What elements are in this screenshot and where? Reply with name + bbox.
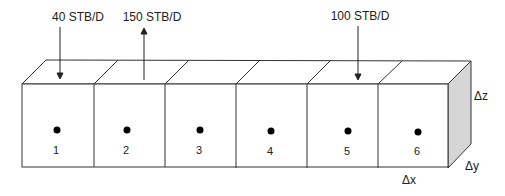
cell-number-1: 1 bbox=[53, 145, 59, 156]
grid-block-drawing bbox=[0, 0, 505, 196]
dimension-label-dx: Δx bbox=[402, 174, 416, 186]
well-rate-label-cell-1: 40 STB/D bbox=[52, 11, 104, 23]
top-face bbox=[22, 60, 471, 84]
node-4 bbox=[268, 128, 275, 135]
node-3 bbox=[197, 127, 204, 134]
node-1 bbox=[54, 127, 61, 134]
cell-number-3: 3 bbox=[196, 145, 202, 156]
dimension-label-dz: Δz bbox=[474, 90, 488, 102]
node-2 bbox=[124, 127, 131, 134]
node-6 bbox=[415, 129, 422, 136]
front-face bbox=[22, 84, 448, 167]
cell-number-4: 4 bbox=[267, 146, 273, 157]
well-rate-label-cell-2: 150 STB/D bbox=[123, 11, 182, 23]
cell-number-5: 5 bbox=[344, 146, 350, 157]
reservoir-grid-diagram: 40 STB/D 150 STB/D 100 STB/D 1 2 3 4 5 6… bbox=[0, 0, 505, 196]
cell-number-6: 6 bbox=[414, 146, 420, 157]
well-rate-label-cell-5: 100 STB/D bbox=[331, 10, 390, 22]
cell-number-2: 2 bbox=[123, 145, 129, 156]
node-5 bbox=[345, 128, 352, 135]
dimension-label-dy: Δy bbox=[465, 160, 479, 172]
arrow-up-icon bbox=[141, 28, 147, 34]
